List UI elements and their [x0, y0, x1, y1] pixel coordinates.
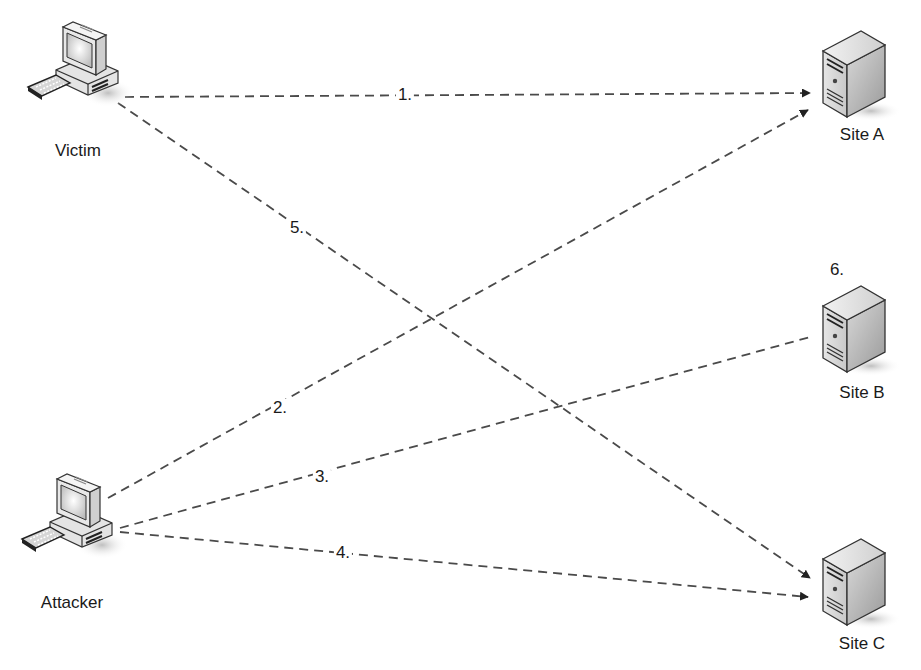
step-label-step3: 3.: [313, 468, 331, 486]
node-label-site-a: Site A: [838, 126, 886, 144]
computer-icon: [22, 474, 128, 559]
step-label-step2: 2.: [271, 399, 289, 417]
connection-attacker-to-site_b: [120, 337, 810, 528]
connection-victim-to-site_c-arrow: [118, 103, 810, 578]
node-label-attacker: Attacker: [39, 594, 105, 612]
computer-icon: [28, 22, 134, 107]
server-icon: [823, 31, 901, 121]
node-label-victim: Victim: [53, 142, 103, 160]
edge-layer: [108, 93, 810, 597]
connection-victim-to-site_a-arrow: [125, 93, 810, 97]
server-icon: [823, 286, 901, 376]
connection-attacker-to-site_c-arrow: [120, 532, 808, 597]
node-label-site-c: Site C: [837, 635, 887, 653]
node-layer: [22, 22, 901, 629]
step-label-step6: 6.: [828, 261, 846, 279]
step-label-step5: 5.: [288, 219, 306, 237]
diagram-canvas: [0, 0, 921, 670]
step-label-step1: 1.: [396, 86, 414, 104]
step-label-step4: 4.: [334, 544, 352, 562]
server-icon: [823, 539, 901, 629]
node-label-site-b: Site B: [837, 384, 886, 402]
connection-attacker-to-site_a-arrow: [108, 110, 808, 498]
